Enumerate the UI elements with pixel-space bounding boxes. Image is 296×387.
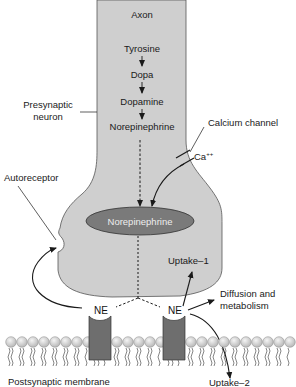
pathway-tyrosine: Tyrosine xyxy=(124,43,160,54)
diffusion-label-line2: metabolism xyxy=(220,300,269,311)
uptake1-label: Uptake–1 xyxy=(168,255,209,266)
ne-right-label: NE xyxy=(168,305,182,316)
leader-line xyxy=(18,186,56,240)
diffusion-label-line1: Diffusion and xyxy=(220,288,275,299)
diffusion-arrow-icon xyxy=(188,300,214,310)
postsynaptic-receptor-right xyxy=(163,316,185,360)
leader-line xyxy=(190,127,204,152)
presynaptic-label-line2: neuron xyxy=(33,111,63,122)
pathway-dopamine: Dopamine xyxy=(120,96,163,107)
axon-label: Axon xyxy=(131,9,153,20)
ne-left-label: NE xyxy=(94,305,108,316)
calcium-ion-label: Ca++ xyxy=(194,151,214,162)
presynaptic-label-line1: Presynaptic xyxy=(23,99,73,110)
vesicle-label: Norepinephrine xyxy=(108,216,173,227)
uptake2-label: Uptake–2 xyxy=(209,377,250,387)
autoreceptor-label: Autoreceptor xyxy=(4,172,58,183)
postsynaptic-receptor-left xyxy=(89,316,111,360)
postsynaptic-membrane-label: Postsynaptic membrane xyxy=(8,376,110,387)
synapse-diagram: Axon Tyrosine Dopa Dopamine Norepinephri… xyxy=(0,0,296,387)
lipid-heads xyxy=(6,337,296,348)
pathway-dopa: Dopa xyxy=(131,69,154,80)
pathway-norepinephrine: Norepinephrine xyxy=(110,121,175,132)
release-dotted-line xyxy=(138,298,160,307)
lipid-bilayer xyxy=(8,348,289,366)
release-dotted-line xyxy=(116,298,138,307)
calcium-channel-label: Calcium channel xyxy=(208,117,278,128)
